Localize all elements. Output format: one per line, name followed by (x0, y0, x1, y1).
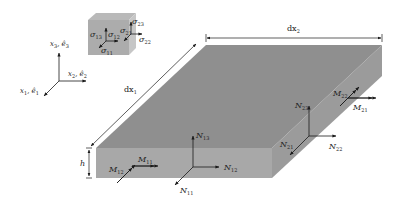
coordinate-axes: x3, ê3 x2, ê2 x1, ê1 (20, 40, 87, 96)
N11-label: N11 (179, 186, 193, 196)
x1-axis (44, 81, 59, 96)
h-label: h (80, 159, 85, 168)
dx2-label: dx2 (287, 24, 300, 34)
dx1-label: dx1 (124, 85, 137, 95)
plate-diagram: σ13 σ12 σ11 σ21 σ23 σ22 x3, ê3 x2, ê2 x1… (0, 0, 398, 206)
cube-top-face (88, 13, 136, 20)
x2-label: x2, ê2 (68, 70, 87, 79)
stress-cube: σ13 σ12 σ11 σ21 σ23 σ22 (88, 13, 151, 56)
N22-label: N22 (328, 142, 342, 152)
M21-label: M21 (352, 103, 368, 113)
x1-label: x1, ê1 (20, 87, 39, 96)
sigma22-label: σ22 (139, 35, 151, 45)
sigma23-label: σ23 (132, 17, 144, 27)
x3-label: x3, ê3 (50, 40, 69, 49)
